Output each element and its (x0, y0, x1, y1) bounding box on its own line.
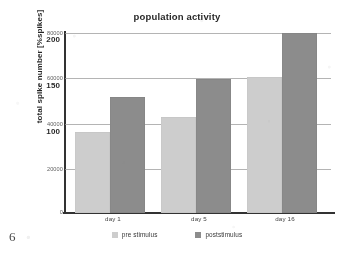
chart-legend: pre stimulus poststimulus (0, 231, 354, 238)
bar-day-1-poststimulus (110, 97, 145, 213)
population-activity-chart: population activity total spike number [… (0, 0, 354, 258)
bar-day-1-pre-stimulus (75, 132, 110, 213)
bar-group-day-5 (161, 33, 237, 213)
bar-day-5-poststimulus (196, 79, 231, 213)
y-tick-pct-200: 200 (46, 35, 60, 44)
legend-swatch-icon-poststimulus (195, 232, 201, 238)
x-label-day-5: day 5 (161, 215, 237, 222)
legend-label-poststimulus: poststimulus (205, 231, 242, 238)
bar-day-16-pre-stimulus (247, 77, 282, 213)
legend-swatch-icon-pre-stimulus (112, 232, 118, 238)
page-number: 6 (9, 229, 16, 245)
x-label-day-1: day 1 (75, 215, 151, 222)
bar-day-5-pre-stimulus (161, 117, 196, 213)
legend-item-poststimulus: poststimulus (195, 231, 242, 238)
bar-group-day-1 (75, 33, 151, 213)
plot-area (65, 33, 331, 213)
legend-label-pre-stimulus: pre stimulus (122, 231, 158, 238)
y-axis-percent-ticks: 200 150 100 (18, 0, 60, 258)
y-tick-pct-150: 150 (46, 81, 60, 90)
bar-group-day-16 (247, 33, 323, 213)
legend-item-pre-stimulus: pre stimulus (112, 231, 158, 238)
y-tick-pct-100: 100 (46, 127, 60, 136)
bar-day-16-poststimulus (282, 33, 317, 213)
x-label-day-16: day 16 (247, 215, 323, 222)
